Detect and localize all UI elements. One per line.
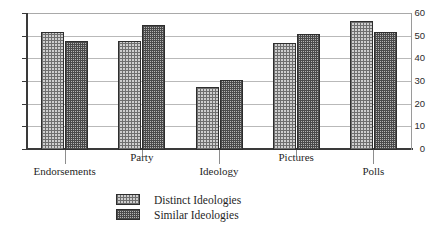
bar-party-distinct-ideologies	[118, 41, 141, 150]
x-tick-mark-polls	[373, 150, 374, 164]
bar-endorsements-distinct-ideologies	[41, 32, 64, 150]
bar-pictures-distinct-ideologies	[273, 43, 296, 150]
bar-pictures-similar-ideologies	[297, 34, 320, 150]
bar-polls-distinct-ideologies	[350, 21, 373, 150]
x-axis-label-endorsements: Endorsements	[5, 166, 125, 177]
bar-endorsements-similar-ideologies	[65, 41, 88, 150]
x-axis-label-party: Party	[82, 152, 202, 163]
bar-ideology-distinct-ideologies	[196, 87, 219, 150]
x-axis-label-pictures: Pictures	[236, 152, 356, 163]
legend-label-similar-ideologies: Similar Ideologies	[154, 209, 239, 221]
bar-party-similar-ideologies	[142, 25, 165, 150]
bars-layer	[26, 13, 413, 150]
x-axis-label-polls: Polls	[313, 166, 430, 177]
legend-label-distinct-ideologies: Distinct Ideologies	[154, 194, 241, 206]
bar-polls-similar-ideologies	[374, 32, 397, 150]
x-tick-mark-ideology	[219, 150, 220, 164]
chart-legend: Distinct Ideologies Similar Ideologies	[116, 192, 316, 222]
x-axis-label-ideology: Ideology	[159, 166, 279, 177]
legend-swatch-distinct-ideologies	[116, 194, 140, 205]
x-tick-mark-endorsements	[65, 150, 66, 164]
bar-ideology-similar-ideologies	[220, 80, 243, 150]
legend-item-distinct-ideologies: Distinct Ideologies	[116, 192, 316, 207]
legend-item-similar-ideologies: Similar Ideologies	[116, 207, 316, 222]
legend-swatch-similar-ideologies	[116, 209, 140, 220]
